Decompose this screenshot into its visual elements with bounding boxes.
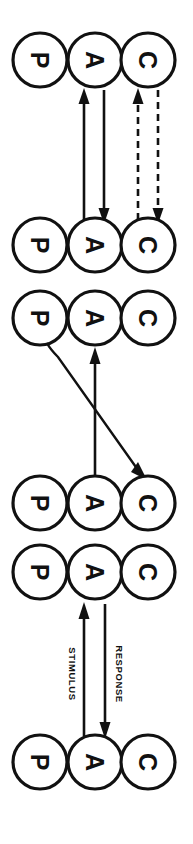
node-label: P (26, 564, 54, 581)
response-label: RESPONSE (114, 645, 125, 703)
arrow-head-up-icon (133, 88, 144, 104)
node-label: C (134, 51, 162, 69)
node-label: P (26, 495, 54, 512)
node-row2-a[interactable]: A (68, 218, 122, 272)
node-label: A (81, 753, 109, 771)
node-row2-c[interactable]: C (121, 218, 175, 272)
edge-row2-to-row1-solid-up (79, 88, 90, 220)
pac-flow-diagram: P A C (0, 0, 193, 844)
edge-row4a-to-row3a-up (90, 347, 101, 478)
node-label: A (81, 236, 109, 254)
stimulus-label: STIMULUS (67, 647, 78, 700)
edge-response-down (100, 604, 111, 739)
node-row1-a[interactable]: A (68, 33, 122, 87)
node-row-1: P A C (13, 33, 175, 87)
edge-row1-to-row2-solid-down (99, 90, 110, 224)
node-row-5: P A C (13, 545, 175, 599)
diagram-canvas: P A C (0, 0, 193, 844)
node-row-3: P A C (13, 291, 175, 345)
node-row1-c[interactable]: C (121, 33, 175, 87)
edge-row1-to-row2-dashed-down (153, 90, 164, 224)
node-label: P (26, 754, 54, 771)
node-row6-c[interactable]: C (121, 735, 175, 789)
node-row-6: P A C (13, 735, 175, 789)
arrow-head-up-icon (79, 88, 90, 104)
node-row6-a[interactable]: A (68, 735, 122, 789)
node-row3-a[interactable]: A (68, 291, 122, 345)
node-row-4: P A C (13, 476, 175, 530)
node-row-2: P A C (13, 218, 175, 272)
node-row4-a[interactable]: A (68, 476, 122, 530)
node-row6-p[interactable]: P (13, 735, 67, 789)
arrow-head-up-icon (79, 602, 90, 619)
node-row4-p[interactable]: P (13, 476, 67, 530)
node-label: P (26, 237, 54, 254)
node-row3-c[interactable]: C (121, 291, 175, 345)
node-row4-c[interactable]: C (121, 476, 175, 530)
node-label: C (134, 753, 162, 771)
node-label: C (134, 309, 162, 327)
node-row5-p[interactable]: P (13, 545, 67, 599)
node-row3-p[interactable]: P (13, 291, 67, 345)
edge-stimulus-up (79, 602, 90, 736)
node-row5-c[interactable]: C (121, 545, 175, 599)
node-row2-p[interactable]: P (13, 218, 67, 272)
node-label: A (81, 309, 109, 327)
node-label: C (134, 563, 162, 581)
node-label: A (81, 494, 109, 512)
node-label: P (26, 310, 54, 327)
node-label: A (81, 51, 109, 69)
node-row1-p[interactable]: P (13, 33, 67, 87)
arrow-head-up-icon (90, 347, 101, 364)
node-label: P (26, 52, 54, 69)
node-label: C (134, 494, 162, 512)
node-label: A (81, 563, 109, 581)
edge-row2-to-row1-dashed-up (133, 88, 144, 220)
node-row5-a[interactable]: A (68, 545, 122, 599)
node-label: C (134, 236, 162, 254)
